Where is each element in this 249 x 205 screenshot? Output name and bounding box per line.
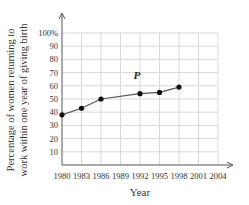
x-tick: 1995: [151, 171, 168, 181]
x-tick: 1992: [132, 171, 149, 181]
x-tick: 1989: [112, 171, 129, 181]
x-tick: 1998: [171, 171, 188, 181]
y-tick: 40: [50, 107, 59, 117]
y-axis-label-line2: work within one year of giving birth: [18, 23, 29, 177]
data-point: [176, 85, 181, 90]
y-tick: 50: [50, 94, 59, 104]
y-tick: 90: [50, 41, 59, 51]
y-tick: 60: [50, 81, 59, 91]
x-tick: 2001: [190, 171, 207, 181]
grid-lines: [62, 33, 218, 165]
x-tick: 1980: [54, 171, 71, 181]
y-axis-label: Percentage of women returning to work wi…: [5, 23, 29, 177]
data-point: [59, 112, 64, 117]
x-tick: 1986: [93, 171, 110, 181]
data-point: [137, 91, 142, 96]
y-tick: 30: [50, 120, 59, 130]
annotation-p: P: [134, 69, 141, 81]
y-tick: 100%: [38, 28, 58, 38]
data-point: [157, 90, 162, 95]
x-tick: 2004: [210, 171, 228, 181]
y-axis-label-line1: Percentage of women returning to: [5, 29, 16, 172]
line-chart: 102030405060708090100% 19801983198619891…: [0, 0, 249, 205]
y-tick: 20: [50, 134, 59, 144]
x-tick: 1983: [73, 171, 90, 181]
data-point: [98, 96, 103, 101]
y-tick: 70: [50, 68, 59, 78]
x-axis-label: Year: [130, 186, 151, 198]
axes: [59, 13, 233, 168]
y-tick-labels: 102030405060708090100%: [38, 28, 58, 157]
y-tick: 80: [50, 54, 59, 64]
y-tick: 10: [50, 147, 59, 157]
x-tick-labels: 198019831986198919921995199820012004: [54, 171, 228, 181]
data-point: [79, 106, 84, 111]
